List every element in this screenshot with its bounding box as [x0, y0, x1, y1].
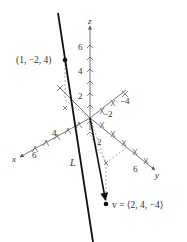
z-axis-label: z — [87, 16, 92, 26]
dashed-guides — [65, 60, 126, 204]
y-neg-tick-2: −2 — [103, 109, 113, 119]
z-tick-2: 2 — [78, 91, 83, 101]
3d-line-diagram: z x y 6 4 2 4 6 2 6 −2 −4 (1, −2, 4) L v… — [0, 0, 187, 242]
vector-v — [90, 118, 106, 200]
line-L-label: L — [69, 157, 76, 168]
y-tick-6: 6 — [133, 164, 138, 174]
z-tick-6: 6 — [78, 42, 83, 52]
z-tick-4: 4 — [78, 66, 83, 76]
point-dot — [63, 58, 68, 63]
x-tick-4: 4 — [52, 128, 57, 138]
vector-label: v = ⟨2, 4, −4⟩ — [112, 200, 163, 210]
point-label: (1, −2, 4) — [16, 55, 51, 66]
y-neg-tick-4: −4 — [120, 96, 130, 106]
y-tick-2: 2 — [97, 137, 102, 147]
y-axis-label: y — [154, 170, 159, 180]
vector-tip-dot — [104, 202, 109, 207]
x-axis-label: x — [11, 154, 16, 164]
x-tick-6: 6 — [32, 150, 37, 160]
